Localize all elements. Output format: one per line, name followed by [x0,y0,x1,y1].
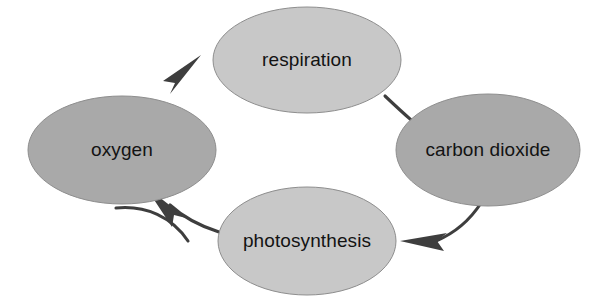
cycle-diagram-canvas: oxygen respiration carbon dioxide photos… [0,0,603,296]
node-carbon-dioxide-label: carbon dioxide [426,139,551,160]
node-oxygen-label: oxygen [91,139,153,160]
node-carbon-dioxide[interactable]: carbon dioxide [396,94,580,206]
node-respiration[interactable]: respiration [213,7,401,113]
cycle-diagram: oxygen respiration carbon dioxide photos… [0,0,603,296]
node-respiration-label: respiration [262,49,352,70]
arrow-carbon-dioxide-to-photosynthesis [400,203,481,251]
node-photosynthesis[interactable]: photosynthesis [218,187,396,295]
node-photosynthesis-label: photosynthesis [243,230,371,251]
node-oxygen[interactable]: oxygen [28,96,216,204]
